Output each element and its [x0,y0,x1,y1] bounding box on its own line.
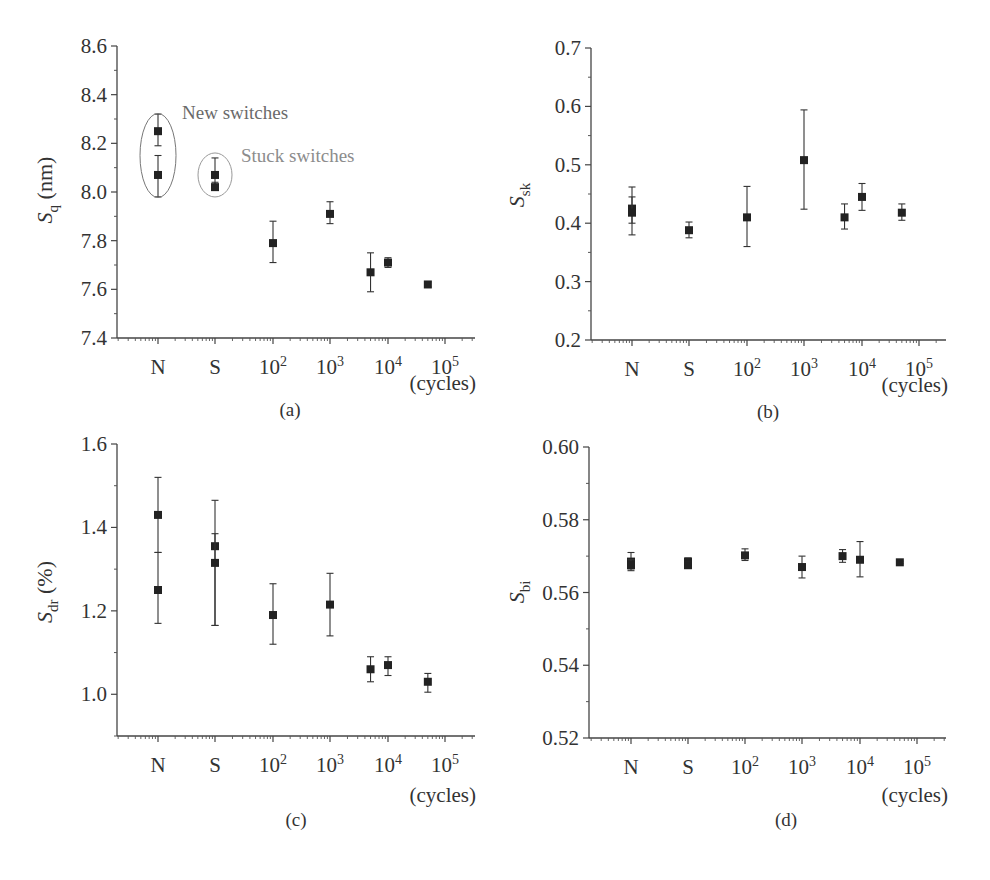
square-marker [743,213,751,221]
y-tick-label: 0.5 [555,153,581,177]
square-marker [384,661,392,669]
square-marker [684,561,692,569]
data-point [896,558,904,566]
data-point [858,183,866,210]
x-unit-label: (cycles) [410,371,476,395]
square-marker [154,586,162,594]
figure-canvas: 7.47.67.88.08.28.48.6NS102103104105(cycl… [0,0,990,880]
data-point [424,673,432,692]
y-tick-label: 0.60 [542,435,579,459]
data-point [154,477,162,552]
y-axis-title: Sq (nm) [32,157,61,224]
square-marker [858,193,866,201]
data-point [384,258,392,268]
data-point [743,186,751,246]
annotation-stuck-switches: Stuck switches [241,145,354,166]
data-point [685,222,693,238]
data-point [269,221,277,262]
x-tick-label: N [150,753,165,777]
x-tick-label: 103 [316,354,344,379]
y-tick-label: 1.2 [81,599,107,623]
data-point [326,202,334,224]
data-point [628,197,636,223]
data-point [367,657,375,682]
square-marker [367,268,375,276]
data-point [841,204,849,229]
square-marker [367,665,375,673]
x-unit-label: (cycles) [882,373,948,397]
x-tick-label: S [209,355,221,379]
data-point [211,182,219,191]
x-tick-label: 102 [259,752,287,777]
square-marker [154,171,162,179]
data-point [798,556,806,578]
square-marker [856,556,864,564]
y-tick-label: 0.4 [555,211,582,235]
y-axis-title: Sbi [504,581,533,604]
y-tick-label: 0.52 [542,726,579,750]
square-marker [839,552,847,560]
data-point [269,584,277,644]
data-point [800,110,808,209]
data-point [839,550,847,563]
x-tick-label: 104 [374,752,402,777]
y-tick-label: 7.8 [81,229,107,253]
chart-panel-c: 1.01.21.41.6NS102103104105(cycles)Sdr (%… [32,432,476,831]
data-point [424,280,432,288]
square-marker [211,183,219,191]
chart-panel-d: 0.520.540.560.580.60NS102103104105(cycle… [504,435,948,831]
y-tick-label: 8.0 [81,180,107,204]
x-unit-label: (cycles) [410,783,476,807]
y-tick-label: 8.4 [81,83,108,107]
y-tick-label: 0.58 [542,508,579,532]
x-tick-label: 102 [733,356,761,381]
square-marker [896,558,904,566]
square-marker [424,280,432,288]
x-tick-label: 104 [374,354,402,379]
y-tick-label: 1.0 [81,682,107,706]
data-point [898,204,906,220]
panel-label: (a) [279,399,300,421]
y-tick-label: 1.6 [81,432,107,456]
square-marker [154,511,162,519]
y-tick-label: 8.2 [81,131,107,155]
data-point [684,561,692,569]
y-tick-label: 0.56 [542,581,579,605]
x-unit-label: (cycles) [882,783,948,807]
square-marker [424,678,432,686]
x-tick-label: 105 [903,754,931,779]
data-point [856,542,864,577]
x-tick-label: S [209,753,221,777]
square-marker [326,210,334,218]
chart-panel-b: 0.20.30.40.50.60.7NS102103104105(cycles)… [504,36,948,423]
y-tick-label: 0.2 [555,328,581,352]
y-tick-label: 0.6 [555,94,581,118]
square-marker [798,563,806,571]
x-tick-label: 103 [790,356,818,381]
x-tick-label: N [624,357,639,381]
square-marker [269,239,277,247]
x-tick-label: S [682,755,694,779]
y-axis-title: Ssk [504,182,533,207]
chart-panel-a: 7.47.67.88.08.28.48.6NS102103104105(cycl… [32,34,476,421]
data-point [384,657,392,676]
x-tick-label: 103 [316,752,344,777]
x-tick-label: 102 [259,354,287,379]
data-point [326,573,334,636]
data-point [154,156,162,197]
square-marker [154,127,162,135]
square-marker [326,601,334,609]
y-axis-title: Sdr (%) [32,561,61,623]
square-marker [384,259,392,267]
square-marker [628,209,636,217]
x-tick-label: 104 [846,754,874,779]
data-point [154,552,162,623]
y-tick-label: 0.7 [555,36,581,60]
x-tick-label: 102 [731,754,759,779]
square-marker [741,551,749,559]
square-marker [627,561,635,569]
square-marker [841,213,849,221]
x-tick-label: 105 [431,752,459,777]
y-tick-label: 7.4 [81,326,108,350]
panel-label: (d) [775,809,797,831]
